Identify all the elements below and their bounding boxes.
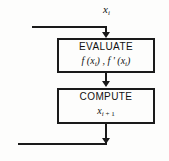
evaluate-formula-mid: ) , f ' (x [97, 55, 126, 66]
input-variable-subscript: i [108, 9, 110, 17]
evaluate-box: EVALUATE f (xi) , f ' (xi) [57, 38, 155, 73]
evaluate-formula-f-open: f (x [82, 55, 95, 66]
compute-box-formula: xi + 1 [97, 104, 114, 121]
evaluate-box-formula: f (xi) , f ' (xi) [82, 54, 131, 71]
compute-box: COMPUTE xi + 1 [57, 88, 155, 124]
top-feedback-line [32, 26, 107, 28]
bottom-feedback-line [18, 143, 107, 145]
flowchart-diagram: xi EVALUATE f (xi) , f ' (xi) COMPUTE xi… [0, 0, 169, 161]
evaluate-box-title: EVALUATE [79, 41, 133, 53]
compute-formula-suffix: + 1 [104, 110, 115, 118]
compute-box-title: COMPUTE [80, 91, 133, 103]
input-variable-label: xi [103, 3, 110, 17]
between-boxes-arrowhead-icon [102, 81, 110, 87]
evaluate-formula-close: ) [127, 55, 130, 66]
